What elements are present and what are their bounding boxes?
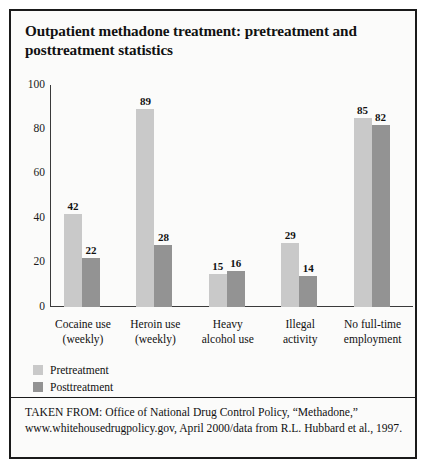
bar-value-label: 82	[368, 111, 394, 123]
bar-post	[227, 271, 245, 307]
bar-post	[372, 125, 390, 307]
x-axis-category-label: Heroin use(weekly)	[118, 317, 192, 346]
source-caption: TAKEN FROM: Office of National Drug Cont…	[25, 405, 403, 436]
chart-plot-area: 020406080100 42228928151629148582	[11, 77, 415, 315]
legend-swatch-icon-posttreatment	[33, 382, 43, 392]
bar-pre	[64, 214, 82, 307]
legend-label-posttreatment: Posttreatment	[50, 381, 113, 393]
bar-group: 8928	[123, 85, 187, 307]
bar-value-label: 29	[277, 229, 303, 241]
legend-label-pretreatment: Pretreatment	[50, 364, 109, 376]
bar-value-label: 22	[78, 244, 104, 256]
x-axis-category-label: Heavyalcohol use	[191, 317, 265, 346]
legend-swatch-icon-pretreatment	[33, 365, 43, 375]
y-axis-tick-label: 60	[15, 166, 45, 178]
y-axis-tick-label: 0	[15, 300, 45, 312]
bar-group: 8582	[341, 85, 405, 307]
x-axis-category-label: No full-timeemployment	[336, 317, 410, 346]
x-axis-category-label: Illegalactivity	[263, 317, 337, 346]
bar-post	[299, 276, 317, 307]
chart-legend: Pretreatment Posttreatment	[33, 363, 113, 397]
y-axis-tick-labels: 020406080100	[11, 77, 45, 315]
x-axis-category-labels: Cocaine use(weekly)Heroin use(weekly)Hea…	[51, 317, 413, 351]
bar-value-label: 28	[150, 231, 176, 243]
bar-value-label: 16	[223, 257, 249, 269]
bar-value-label: 89	[132, 95, 158, 107]
bar-group: 2914	[268, 85, 332, 307]
bar-group: 4222	[51, 85, 115, 307]
bar-value-label: 14	[295, 262, 321, 274]
y-axis-tick-label: 80	[15, 122, 45, 134]
y-axis-tick-label: 100	[15, 78, 45, 90]
figure-panel: Outpatient methadone treatment: pretreat…	[9, 9, 417, 459]
y-axis-tick-label: 20	[15, 255, 45, 267]
legend-item-posttreatment: Posttreatment	[33, 380, 113, 394]
bar-post	[154, 245, 172, 307]
bar-groups: 42228928151629148582	[51, 85, 413, 307]
x-axis-category-label: Cocaine use(weekly)	[46, 317, 120, 346]
page-title: Outpatient methadone treatment: pretreat…	[25, 21, 397, 59]
bar-pre	[354, 118, 372, 307]
bar-pre	[209, 274, 227, 307]
y-axis-tick-label: 40	[15, 211, 45, 223]
legend-item-pretreatment: Pretreatment	[33, 363, 113, 377]
bar-post	[82, 258, 100, 307]
source-divider	[11, 397, 415, 398]
bar-value-label: 42	[60, 200, 86, 212]
bar-pre	[281, 243, 299, 307]
bar-group: 1516	[196, 85, 260, 307]
bar-pre	[136, 109, 154, 307]
